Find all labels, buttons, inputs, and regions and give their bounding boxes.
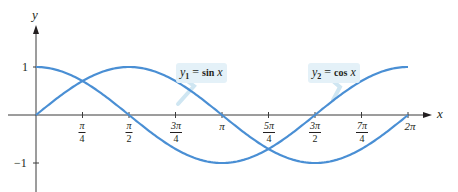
x-axis-label: x bbox=[437, 107, 443, 120]
y-axis-arrow-icon bbox=[33, 25, 39, 34]
sin-callout: y1 = sin x bbox=[176, 63, 227, 83]
chart-canvas bbox=[0, 0, 458, 192]
y-tick-label-1: 1 bbox=[22, 61, 28, 73]
x-tick-label-2pi: 2π bbox=[404, 120, 415, 132]
x-tick-label-7pi-over-4: 7π 4 bbox=[356, 121, 368, 144]
x-tick-label-5pi-over-4: 5π 4 bbox=[263, 121, 275, 144]
x-tick-label-3pi-over-2: 3π 2 bbox=[309, 121, 321, 144]
y-axis-label: y bbox=[32, 8, 38, 21]
x-tick-label-pi: π bbox=[219, 120, 225, 132]
cos-callout: y2 = cos x bbox=[308, 63, 360, 83]
x-tick-label-pi-over-2: π 2 bbox=[125, 121, 132, 144]
y-tick-label-neg1: −1 bbox=[14, 157, 27, 169]
x-tick-label-pi-over-4: π 4 bbox=[78, 121, 85, 144]
x-axis-arrow-icon bbox=[423, 112, 432, 118]
axes bbox=[8, 25, 432, 192]
x-tick-label-3pi-over-4: 3π 4 bbox=[170, 121, 182, 144]
